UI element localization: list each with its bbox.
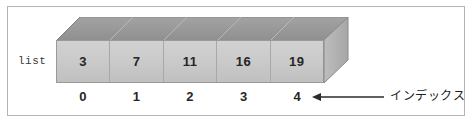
list-label: list [18, 54, 46, 68]
index-value: 0 [79, 89, 86, 105]
index-cell: 1 [110, 88, 164, 106]
index-cell: 0 [56, 88, 110, 106]
index-value: 4 [294, 89, 301, 105]
index-cell: 3 [217, 88, 271, 106]
cell-value: 16 [236, 55, 251, 69]
array-cell: 7 [110, 41, 163, 82]
index-caption: インデックス [390, 88, 465, 104]
index-value: 3 [240, 89, 247, 105]
cell-value: 7 [133, 55, 141, 69]
index-value: 1 [133, 89, 140, 105]
cell-value: 19 [289, 55, 304, 69]
array-front-face: 3 7 11 16 19 [56, 40, 324, 83]
index-value: 2 [186, 89, 193, 105]
index-cell: 2 [163, 88, 217, 106]
array-end-cap [323, 17, 349, 83]
arrow-left-icon [312, 90, 384, 104]
cell-value: 11 [183, 55, 198, 69]
array-cell: 16 [217, 41, 270, 82]
array-box-3d: 3 7 11 16 19 [56, 17, 348, 83]
array-cell: 3 [57, 41, 110, 82]
array-cell: 11 [164, 41, 217, 82]
cell-value: 3 [79, 55, 87, 69]
list-index-diagram: list [0, 0, 473, 125]
index-row: 0 1 2 3 4 [56, 88, 324, 106]
array-top-face [56, 17, 348, 41]
array-cell: 19 [271, 41, 323, 82]
